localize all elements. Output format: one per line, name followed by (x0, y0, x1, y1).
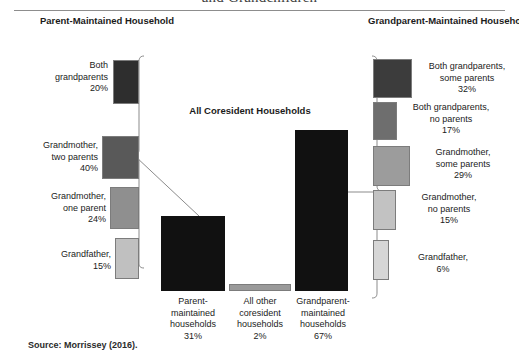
bar-right-both-grandparents-no-parents (373, 102, 397, 140)
figure-container: and Grandchildren Parent-Maintained Hous… (0, 0, 519, 359)
label-mid-parent-maintained: Parent- maintained households 31% (157, 296, 229, 342)
bar-mid-grandparent-maintained (295, 130, 348, 291)
header-all-coresident: All Coresident Households (160, 105, 340, 116)
label-right-grandmother-some-parents: Grandmother, some parents 29% (415, 147, 511, 182)
label-left-grandmother-one-parent: Grandmother, one parent 24% (16, 191, 106, 226)
header-parent-maintained: Parent-Maintained Household (22, 15, 192, 28)
bar-right-both-grandparents-some-parents (373, 59, 412, 98)
label-right-grandfather: Grandfather, 6% (395, 252, 491, 275)
label-right-both-grandparents-some-parents: Both grandparents, some parents 32% (417, 61, 517, 96)
bar-left-grandmother-two-parents (102, 136, 139, 179)
bar-right-grandmother-no-parents (373, 190, 396, 230)
header-grandparent-maintained: Grandparent-Maintained Household (368, 15, 518, 28)
bar-left-both-grandparents (113, 60, 139, 104)
bar-mid-all-other-coresident (229, 284, 291, 291)
bar-left-grandmother-one-parent (110, 187, 139, 229)
figure-title: and Grandchildren (0, 0, 519, 6)
label-mid-grandparent-maintained: Grandparent- maintained households 67% (285, 296, 361, 342)
bar-right-grandfather (373, 240, 389, 280)
label-left-grandmother-two-parents: Grandmother, two parents 40% (8, 140, 98, 175)
bar-left-grandfather (115, 238, 139, 279)
title-divider (14, 10, 505, 11)
label-right-grandmother-no-parents: Grandmother, no parents 15% (401, 192, 497, 227)
label-left-grandfather: Grandfather, 15% (21, 249, 111, 272)
bar-right-grandmother-some-parents (373, 146, 410, 186)
source-note: Source: Morrissey (2016). (28, 340, 138, 350)
bar-mid-parent-maintained (161, 216, 225, 291)
label-right-both-grandparents-no-parents: Both grandparents, no parents 17% (401, 102, 501, 137)
label-left-both-grandparents: Both grandparents 20% (18, 60, 108, 95)
